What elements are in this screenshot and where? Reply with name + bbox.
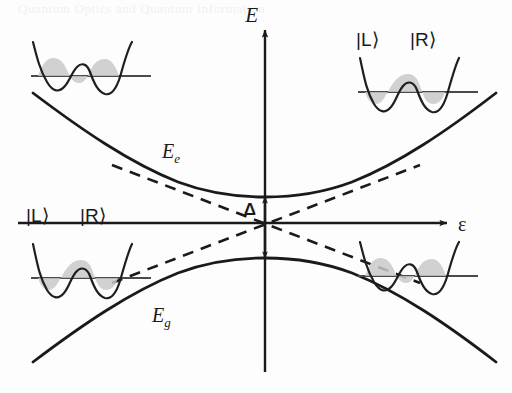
- inset-top-right-ket-right: |R⟩: [410, 29, 436, 50]
- x-axis-label: ε: [458, 213, 466, 235]
- y-axis-label: E: [244, 3, 258, 27]
- inset-bottom-left-ket-right: |R⟩: [80, 205, 106, 226]
- label-Eg-base: E: [151, 304, 164, 326]
- inset-bottom-right: [358, 242, 478, 294]
- inset-top-right-ket-left: |L⟩: [356, 29, 379, 50]
- inset-bottom-left-potential: [31, 244, 151, 298]
- inset-top-right-potential: [358, 58, 478, 112]
- inset-bottom-left: |L⟩ |R⟩: [26, 205, 151, 298]
- label-Ee-subscript: e: [174, 151, 180, 166]
- inset-top-left: [31, 42, 151, 94]
- figure-root: Quantum Optics and Quantum Information: [0, 0, 512, 393]
- label-Ee-base: E: [161, 140, 174, 162]
- branch-labels: Ee Eg: [151, 140, 180, 330]
- avoided-crossing-diagram: E ε Δ Ee Eg: [0, 0, 512, 393]
- inset-bottom-right-potential: [358, 242, 478, 294]
- label-Eg: Eg: [151, 304, 171, 330]
- inset-top-left-potential: [31, 42, 151, 94]
- label-Eg-subscript: g: [164, 315, 171, 330]
- inset-bottom-left-ket-left: |L⟩: [26, 205, 49, 226]
- axes-group: E ε: [18, 3, 466, 372]
- gap-label-delta: Δ: [244, 200, 256, 219]
- label-Ee: Ee: [161, 140, 180, 166]
- inset-top-right: |L⟩ |R⟩: [356, 29, 478, 112]
